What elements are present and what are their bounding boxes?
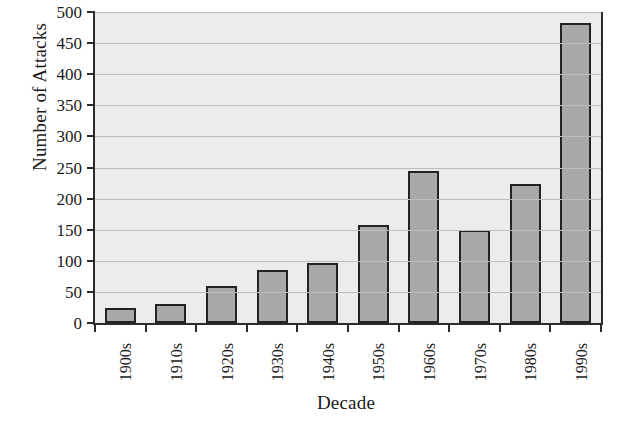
gridline — [95, 12, 601, 13]
bar — [459, 230, 490, 323]
bar — [408, 171, 439, 323]
x-axis-tick — [600, 323, 602, 332]
y-axis-tick — [87, 73, 95, 75]
gridline — [95, 199, 601, 200]
y-axis-tick-label: 350 — [34, 97, 82, 114]
gridline — [95, 168, 601, 169]
gridline — [95, 136, 601, 137]
gridline — [95, 292, 601, 293]
x-axis-title: Decade — [93, 392, 599, 414]
gridline — [95, 230, 601, 231]
bar — [155, 304, 186, 323]
y-axis-tick — [87, 198, 95, 200]
y-axis-tick-label: 200 — [34, 191, 82, 208]
y-axis-tick-label: 250 — [34, 160, 82, 177]
gridline — [95, 74, 601, 75]
y-axis-tick — [87, 104, 95, 106]
bar — [358, 225, 389, 323]
y-axis-tick-label: 100 — [34, 253, 82, 270]
y-axis-tick-label: 500 — [34, 4, 82, 21]
bar — [105, 308, 136, 323]
y-axis-tick — [87, 11, 95, 13]
y-axis-tick-label: 400 — [34, 66, 82, 83]
bar — [560, 23, 591, 323]
gridline — [95, 261, 601, 262]
y-axis-tick — [87, 260, 95, 262]
y-axis-tick-label: 50 — [34, 284, 82, 301]
bar — [510, 184, 541, 323]
y-axis-tick-label: 300 — [34, 128, 82, 145]
x-axis-tick-labels: 1900s1910s1920s1930s1940s1950s1960s1970s… — [93, 323, 599, 393]
y-axis-tick — [87, 167, 95, 169]
gridline — [95, 43, 601, 44]
y-axis-tick-label: 450 — [34, 35, 82, 52]
y-axis-tick — [87, 229, 95, 231]
y-axis-tick — [87, 291, 95, 293]
bar — [257, 270, 288, 323]
y-axis-tick — [87, 135, 95, 137]
y-axis-tick — [87, 42, 95, 44]
bar-chart: Number of Attacks 0501001502002503003504… — [0, 0, 626, 424]
y-axis-tick-label: 0 — [34, 315, 82, 332]
y-axis-tick-label: 150 — [34, 222, 82, 239]
plot-area — [93, 12, 603, 325]
gridline — [95, 105, 601, 106]
y-axis-tick-labels: 050100150200250300350400450500 — [34, 0, 82, 424]
